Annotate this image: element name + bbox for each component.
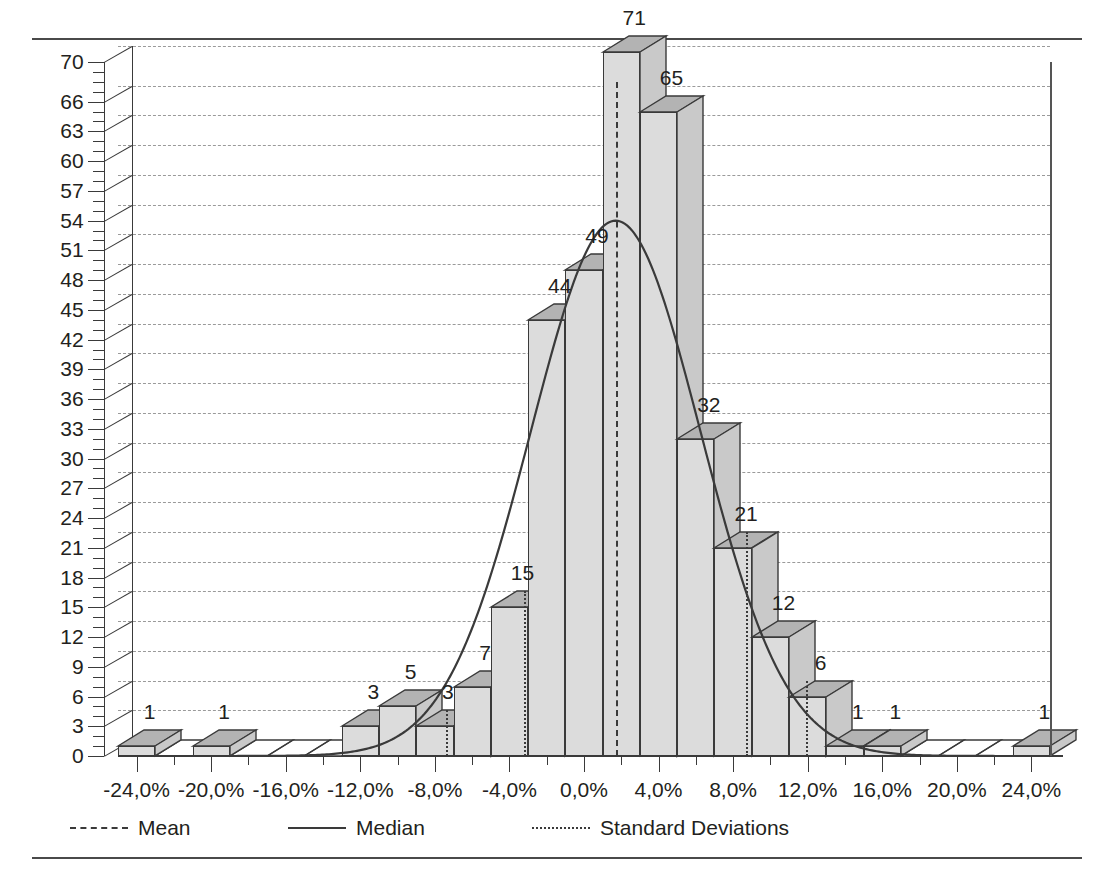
y-axis-minor-tick [93, 389, 104, 390]
y-axis-tick-label: 39 [60, 357, 84, 381]
y-axis-minor-tick [93, 597, 104, 598]
y-axis-minor-tick [93, 72, 104, 73]
y-axis-tick-label: 12 [60, 625, 84, 649]
bottom-rule [32, 857, 1082, 859]
y-axis-minor-tick [93, 657, 104, 658]
y-axis-tick [88, 221, 104, 222]
x-axis-tick [509, 756, 510, 772]
x-axis-tick-label: -4,0% [482, 778, 537, 802]
x-axis-minor-tick [845, 756, 846, 765]
y-axis-tick [88, 310, 104, 311]
y-axis-tick-label: 27 [60, 476, 84, 500]
y-axis-tick [88, 578, 104, 579]
y-axis-minor-tick [93, 82, 104, 83]
y-axis-tick [88, 459, 104, 460]
y-axis-tick-label: 33 [60, 417, 84, 441]
x-axis-tick-label: 0,0% [560, 778, 608, 802]
x-axis-tick [957, 756, 958, 772]
y-axis-minor-tick [93, 181, 104, 182]
bar-value-label: 44 [548, 274, 571, 298]
y-axis-minor-tick [93, 508, 104, 509]
plot-right-border [1050, 62, 1052, 756]
standard-deviation-line [746, 532, 748, 756]
bar-value-label: 3 [442, 680, 454, 704]
x-axis-tick-label: -12,0% [327, 778, 394, 802]
x-axis-tick-label: -20,0% [178, 778, 245, 802]
x-axis-tick [137, 756, 138, 772]
bar-value-label: 49 [585, 224, 608, 248]
y-axis-minor-tick [93, 151, 104, 152]
x-axis-minor-tick [994, 756, 995, 765]
legend-item: Standard Deviations [532, 816, 789, 840]
y-axis-minor-tick [93, 290, 104, 291]
y-axis-tick-label: 3 [72, 714, 84, 738]
x-axis-minor-tick [248, 756, 249, 765]
y-axis-minor-tick [93, 112, 104, 113]
x-axis-minor-tick [547, 756, 548, 765]
bar-value-label: 5 [405, 660, 417, 684]
y-axis-minor-tick [93, 647, 104, 648]
y-axis-tick [88, 726, 104, 727]
y-axis-minor-tick [93, 121, 104, 122]
y-axis-minor-tick [93, 558, 104, 559]
y-axis-tick-label: 66 [60, 90, 84, 114]
x-axis-minor-tick [621, 756, 622, 765]
y-axis-minor-tick [93, 468, 104, 469]
y-axis-minor-tick [93, 92, 104, 93]
y-axis-tick-label: 36 [60, 387, 84, 411]
standard-deviation-line [524, 591, 526, 756]
y-axis-tick [88, 548, 104, 549]
y-axis-minor-tick [93, 141, 104, 142]
bar-value-label: 65 [660, 66, 683, 90]
legend-item: Median [288, 816, 425, 840]
y-axis-tick [88, 756, 104, 757]
x-axis-minor-tick [696, 756, 697, 765]
y-axis-minor-tick [93, 419, 104, 420]
bar-value-label: 32 [697, 393, 720, 417]
y-axis-tick-label: 21 [60, 536, 84, 560]
y-axis-minor-tick [93, 736, 104, 737]
y-axis-tick-label: 0 [72, 744, 84, 768]
x-axis-minor-tick [398, 756, 399, 765]
histogram-figure: 0369121518212427303336394245485154576063… [0, 0, 1114, 886]
y-axis-minor-tick [93, 716, 104, 717]
y-axis-tick-label: 15 [60, 595, 84, 619]
y-axis-tick [88, 667, 104, 668]
bar-value-label: 3 [367, 680, 379, 704]
y-axis-minor-tick [93, 330, 104, 331]
y-axis-tick-label: 42 [60, 328, 84, 352]
y-axis-minor-tick [93, 240, 104, 241]
x-axis-tick [659, 756, 660, 772]
x-axis-tick-label: 24,0% [1002, 778, 1062, 802]
bar-value-label: 1 [889, 700, 901, 724]
y-axis-tick-label: 9 [72, 655, 84, 679]
y-axis-minor-tick [93, 409, 104, 410]
x-axis-minor-tick [174, 756, 175, 765]
x-axis-tick [584, 756, 585, 772]
y-axis-tick [88, 191, 104, 192]
y-axis-tick [88, 607, 104, 608]
y-axis-tick-label: 30 [60, 447, 84, 471]
y-axis-minor-tick [93, 359, 104, 360]
y-axis-minor-tick [93, 320, 104, 321]
y-axis-minor-tick [93, 627, 104, 628]
solid-line-icon [288, 827, 346, 829]
bar-side-face [1050, 730, 1076, 756]
y-axis-tick-label: 63 [60, 119, 84, 143]
legend-item: Mean [70, 816, 191, 840]
x-axis-tick [1031, 756, 1032, 772]
mean-line [616, 82, 618, 756]
y-axis-tick [88, 637, 104, 638]
dotted-line-icon [532, 827, 590, 829]
plot-area: 11353715444971653221126111 [118, 62, 1050, 756]
y-axis-tick [88, 429, 104, 430]
x-axis-minor-tick [323, 756, 324, 765]
y-axis-minor-tick [93, 587, 104, 588]
x-axis-tick [882, 756, 883, 772]
y-axis-minor-tick [93, 270, 104, 271]
bar-value-label: 7 [479, 641, 491, 665]
y-axis-minor-tick [93, 201, 104, 202]
y-axis-minor-tick [93, 617, 104, 618]
y-axis-tick-label: 48 [60, 268, 84, 292]
y-axis-tick-label: 18 [60, 566, 84, 590]
